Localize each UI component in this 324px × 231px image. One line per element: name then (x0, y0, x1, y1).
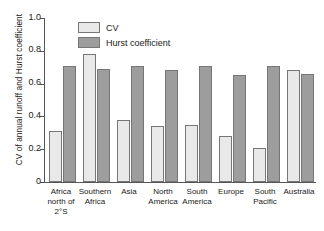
bar-hurst (267, 66, 280, 182)
y-tick-label: 0.8 (28, 44, 41, 54)
legend-swatch-hurst (78, 37, 100, 48)
y-tick-label: 0.2 (28, 143, 41, 153)
bar-group (219, 18, 246, 182)
bar-cv (83, 54, 96, 182)
bar-cv (117, 120, 130, 182)
y-tick-label: 0 (36, 176, 41, 186)
chart-legend: CVHurst coefficient (78, 22, 170, 52)
legend-label: CV (106, 23, 119, 33)
bar-cv (151, 126, 164, 182)
bar-hurst (233, 75, 246, 182)
bar-cv (253, 148, 266, 182)
bar-hurst (165, 70, 178, 182)
bar-hurst (131, 66, 144, 182)
y-axis-label: CV of annual runoff and Hurst coefficien… (15, 2, 24, 177)
chart-figure: CV of annual runoff and Hurst coefficien… (0, 0, 324, 231)
bar-hurst (301, 74, 314, 182)
bar-cv (49, 131, 62, 182)
bar-cv (219, 136, 232, 182)
legend-item: Hurst coefficient (78, 37, 170, 48)
bar-group (49, 18, 76, 182)
bar-cv (185, 125, 198, 182)
bar-cv (287, 70, 300, 182)
legend-swatch-cv (78, 22, 100, 33)
bar-hurst (63, 66, 76, 182)
y-tick-label: 1.0 (28, 12, 41, 22)
bar-group (253, 18, 280, 182)
legend-label: Hurst coefficient (106, 38, 170, 48)
y-tick-label: 0.4 (28, 110, 41, 120)
bar-hurst (199, 66, 212, 182)
y-tick-label: 0.6 (28, 77, 41, 87)
x-axis-line (44, 182, 316, 183)
bar-group (287, 18, 314, 182)
bar-group (185, 18, 212, 182)
bar-hurst (97, 69, 110, 182)
x-tick-label: Australia (276, 187, 322, 197)
legend-item: CV (78, 22, 170, 33)
